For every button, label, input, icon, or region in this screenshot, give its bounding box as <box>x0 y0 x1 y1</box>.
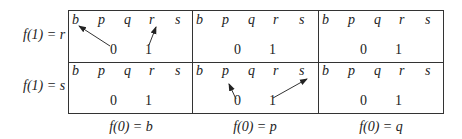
arrows-layer <box>0 0 462 139</box>
arrow-0-to-b <box>79 26 110 46</box>
arrow-1-to-s <box>273 79 307 98</box>
arrow-1-to-r <box>149 27 156 45</box>
arrow-0-to-p <box>229 84 236 99</box>
